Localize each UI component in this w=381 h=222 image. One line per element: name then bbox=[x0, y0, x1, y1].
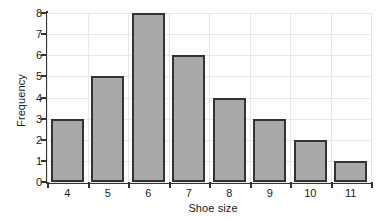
x-tick-mark bbox=[331, 182, 333, 188]
y-tick-label: 6 bbox=[28, 50, 42, 61]
gridline-vertical bbox=[250, 13, 251, 182]
x-axis-title: Shoe size bbox=[55, 202, 371, 214]
x-tick-label: 4 bbox=[64, 187, 70, 199]
x-tick-label: 10 bbox=[304, 187, 316, 199]
bar-11 bbox=[334, 161, 367, 182]
y-tick-label: 1 bbox=[28, 155, 42, 166]
gridline-vertical bbox=[169, 13, 170, 182]
bar-8 bbox=[213, 98, 246, 183]
y-axis-title: Frequency bbox=[14, 13, 28, 188]
x-tick-mark bbox=[88, 182, 90, 188]
x-tick-label: 8 bbox=[226, 187, 232, 199]
y-tick-mark bbox=[41, 160, 47, 162]
x-axis-tick-labels: 4567891011 bbox=[0, 187, 381, 201]
y-tick-mark bbox=[41, 139, 47, 141]
gridline-vertical bbox=[88, 13, 89, 182]
plot-area bbox=[47, 13, 371, 182]
bar-10 bbox=[294, 140, 327, 182]
x-tick-mark bbox=[209, 182, 211, 188]
y-tick-label: 8 bbox=[28, 8, 42, 19]
bar-5 bbox=[91, 76, 124, 182]
x-tick-label: 6 bbox=[145, 187, 151, 199]
y-tick-label: 3 bbox=[28, 113, 42, 124]
bar-6 bbox=[132, 13, 165, 182]
x-tick-label: 11 bbox=[345, 187, 356, 199]
gridline-vertical bbox=[290, 13, 291, 182]
x-tick-label: 9 bbox=[267, 187, 273, 199]
x-tick-label: 7 bbox=[186, 187, 192, 199]
y-tick-mark bbox=[41, 54, 47, 56]
gridline-vertical bbox=[128, 13, 129, 182]
gridline-vertical bbox=[47, 13, 48, 182]
x-tick-mark bbox=[169, 182, 171, 188]
y-tick-label: 2 bbox=[28, 134, 42, 145]
y-tick-label: 5 bbox=[28, 71, 42, 82]
y-tick-mark bbox=[41, 33, 47, 35]
y-tick-label: 4 bbox=[28, 92, 42, 103]
x-tick-mark bbox=[250, 182, 252, 188]
y-tick-label: 7 bbox=[28, 29, 42, 40]
y-tick-mark bbox=[41, 75, 47, 77]
y-tick-mark bbox=[41, 118, 47, 120]
x-tick-mark bbox=[128, 182, 130, 188]
y-tick-mark bbox=[41, 12, 47, 14]
x-tick-mark bbox=[290, 182, 292, 188]
bar-9 bbox=[253, 119, 286, 182]
gridline-vertical bbox=[331, 13, 332, 182]
x-tick-mark bbox=[371, 182, 373, 188]
bar-4 bbox=[51, 119, 84, 182]
gridline-vertical bbox=[371, 13, 372, 182]
histogram-chart: Frequency 012345678 4567891011 Shoe size bbox=[0, 0, 381, 222]
y-tick-mark bbox=[41, 97, 47, 99]
x-tick-mark bbox=[47, 182, 49, 188]
bar-7 bbox=[172, 55, 205, 182]
gridline-vertical bbox=[209, 13, 210, 182]
y-tick-label: 0 bbox=[28, 177, 42, 188]
x-tick-label: 5 bbox=[105, 187, 111, 199]
